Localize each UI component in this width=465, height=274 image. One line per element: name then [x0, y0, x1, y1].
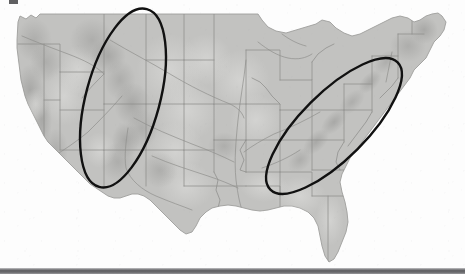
bottom-page-edge-bar — [0, 268, 465, 274]
figure-container: Map of the contiguous United States with… — [0, 0, 465, 274]
us-map-graphic — [0, 0, 465, 274]
top-scan-artifact — [9, 0, 18, 4]
